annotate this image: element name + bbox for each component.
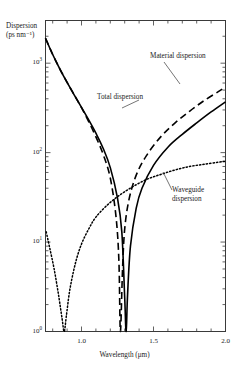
annotation-waveguide-line1: Waveguide: [172, 186, 204, 194]
annotation-material-dispersion: Material dispersion: [150, 52, 206, 61]
y-axis-label: Dispersion (ps nm⁻¹): [6, 22, 37, 39]
y-tick-label: 101: [18, 237, 42, 245]
x-tick-label: 1.0: [69, 337, 95, 345]
dispersion-chart: [0, 0, 249, 368]
y-tick-label: 102: [18, 148, 42, 156]
x-tick-label: 2.0: [213, 337, 239, 345]
annotation-waveguide-line2: dispersion: [172, 195, 202, 203]
y-axis-label-line2: (ps nm⁻¹): [6, 31, 37, 40]
x-tick-label: 1.5: [141, 337, 167, 345]
annotation-total-dispersion: Total dispersion: [97, 93, 143, 102]
x-axis-label: Wavelength (μm): [0, 351, 249, 360]
y-tick-label: 103: [18, 58, 42, 66]
annotation-waveguide-dispersion: Waveguide dispersion: [172, 186, 204, 203]
leader-material: [164, 62, 180, 84]
y-tick-label: 100: [18, 327, 42, 335]
leader-waveguide: [163, 172, 172, 190]
y-axis-label-line1: Dispersion: [6, 22, 37, 30]
data-curves: [46, 38, 226, 331]
